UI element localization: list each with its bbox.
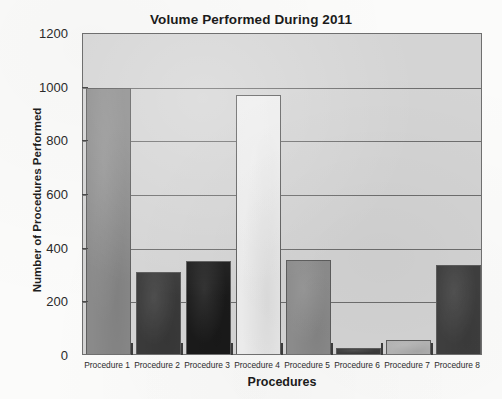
y-axis-title: Number of Procedures Performed [31,60,43,340]
x-tick-label: Procedure 4 [234,360,280,370]
bar-4 [236,95,281,354]
bar-shading [137,273,180,354]
x-tick-label: Procedure 3 [184,360,230,370]
chart-page: Volume Performed During 2011 02004006008… [0,0,502,399]
x-tick-label: Procedure 2 [134,360,180,370]
bar-shading [437,266,480,354]
y-tick-mark [82,87,88,88]
x-tick-label: Procedure 8 [434,360,480,370]
bar-shading [287,261,330,354]
y-tick-mark [82,248,88,249]
bar-shading [187,262,230,354]
y-tick-mark [82,301,88,302]
y-tick-label: 1000 [39,79,68,94]
y-tick-label: 400 [46,240,68,255]
bar-series [83,34,481,354]
y-tick-label: 600 [46,187,68,202]
plot-area [82,33,482,355]
y-tick-mark [82,140,88,141]
x-axis-tick [281,343,283,355]
bar-8 [436,265,481,354]
bar-2 [136,272,181,354]
y-tick-label: 200 [46,294,68,309]
x-axis-tick [381,343,383,355]
x-tick-label: Procedure 6 [334,360,380,370]
x-axis-title: Procedures [82,375,482,389]
bar-shading [87,89,130,354]
bar-5 [286,260,331,354]
bar-3 [186,261,231,354]
x-axis-tick [431,343,433,355]
bar-1 [86,88,131,354]
y-tick-mark [82,194,88,195]
y-tick-label: 1200 [39,26,68,41]
y-tick-label: 800 [46,133,68,148]
x-axis-tick [181,343,183,355]
y-tick-label: 0 [61,348,68,363]
bar-shading [237,96,280,354]
x-tick-label: Procedure 5 [284,360,330,370]
x-axis-tick [131,343,133,355]
x-axis-ticks [82,343,482,356]
x-tick-label: Procedure 1 [84,360,130,370]
x-axis-tick [231,343,233,355]
x-axis-tick-labels: Procedure 1Procedure 2Procedure 3Procedu… [82,360,482,374]
x-axis-tick [331,343,333,355]
x-tick-label: Procedure 7 [384,360,430,370]
